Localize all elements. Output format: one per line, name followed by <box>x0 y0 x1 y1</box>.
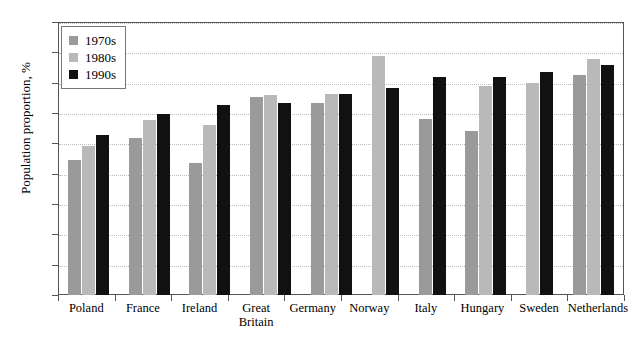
legend-label: 1980s <box>85 50 116 66</box>
x-axis-labels: PolandFranceIrelandGreatBritainGermanyNo… <box>58 301 624 330</box>
gridline <box>59 23 623 24</box>
x-axis-label: Ireland <box>171 301 227 330</box>
legend-item: 1980s <box>69 49 116 66</box>
gridline <box>59 235 623 236</box>
legend-swatch-icon <box>69 36 78 45</box>
plot-area <box>58 22 624 295</box>
x-axis-label: Sweden <box>511 301 567 330</box>
x-axis-label: Poland <box>58 301 114 330</box>
gridline <box>59 175 623 176</box>
gridline <box>59 53 623 54</box>
legend-swatch-icon <box>69 70 78 79</box>
x-axis-label: Italy <box>398 301 454 330</box>
x-axis-label: France <box>115 301 171 330</box>
x-axis-label: Netherlands <box>568 301 624 330</box>
gridline <box>59 266 623 267</box>
gridline <box>59 114 623 115</box>
gridline <box>59 144 623 145</box>
x-axis-label: GreatBritain <box>228 301 284 330</box>
x-axis-label: Hungary <box>454 301 510 330</box>
legend-item: 1970s <box>69 32 116 49</box>
bar-chart: Population proportion, % 051015202530354… <box>0 0 632 344</box>
x-axis-label: Norway <box>341 301 397 330</box>
x-axis-label: Germany <box>285 301 341 330</box>
legend-label: 1970s <box>85 33 116 49</box>
legend-swatch-icon <box>69 53 78 62</box>
gridline <box>59 84 623 85</box>
gridline <box>59 205 623 206</box>
legend: 1970s1980s1990s <box>61 26 126 89</box>
legend-item: 1990s <box>69 66 116 83</box>
legend-label: 1990s <box>85 67 116 83</box>
y-axis-title: Population proportion, % <box>18 0 34 258</box>
